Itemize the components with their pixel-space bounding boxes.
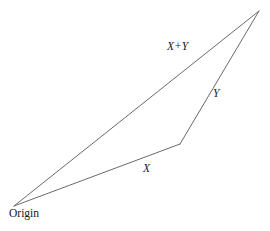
- vector-x-line: [14, 144, 180, 206]
- vector-y-line: [180, 11, 259, 144]
- sum-vector-label: X+Y: [167, 41, 188, 53]
- vector-diagram-figure: Origin X+Y Y X: [0, 0, 270, 231]
- vector-x-label: X: [143, 163, 150, 175]
- vector-sum-line: [14, 11, 259, 206]
- origin-label: Origin: [9, 208, 39, 220]
- vector-triangle-svg: [0, 0, 270, 231]
- vector-y-label: Y: [213, 88, 219, 100]
